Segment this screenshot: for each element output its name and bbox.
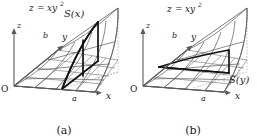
tick-label-a-x: a (72, 94, 77, 103)
axis-z-a (11, 28, 16, 86)
axis-label-x-a: x (106, 91, 111, 101)
figure-panel-b: z = xy 2 S(y) z y x O a b (b) (129, 0, 257, 139)
panel-caption-b: (b) (129, 124, 257, 137)
axis-label-z-b: z (145, 21, 151, 30)
figure-panel-a: z = xy 2 S(x) z y x O a b (a) (0, 0, 128, 139)
axis-label-y-b: y (190, 32, 197, 42)
tick-label-a-y: b (43, 31, 48, 40)
diagram-a: z = xy 2 S(x) z y x O a b (0, 0, 128, 120)
surface-equation-lhs-b: z (166, 4, 172, 14)
tick-label-b-y: b (172, 31, 177, 40)
axis-label-y-a: y (61, 32, 68, 42)
axis-z-b (140, 28, 145, 86)
cross-section-label-a: S(x) (64, 8, 84, 19)
axis-label-z-a: z (16, 21, 22, 30)
cross-section-label-b: S(y) (229, 74, 249, 85)
surface-equation-base-b: xy (185, 4, 196, 14)
surface-equation-exponent-b: 2 (197, 1, 202, 8)
origin-label-b: O (130, 84, 137, 94)
surface-equation-exponent-a: 2 (59, 0, 64, 7)
surface-equation-equals-a: = (37, 3, 45, 13)
origin-label-a: O (1, 84, 8, 94)
surface-equation-equals-b: = (175, 4, 183, 14)
panel-caption-a: (a) (0, 124, 128, 137)
figure-pair: z = xy 2 S(x) z y x O a b (a) (0, 0, 257, 139)
surface-equation-lhs-a: z (28, 3, 34, 13)
diagram-b: z = xy 2 S(y) z y x O a b (129, 0, 257, 120)
tick-label-b-x: a (201, 94, 206, 103)
axis-label-x-b: x (235, 91, 240, 101)
surface-equation-base-a: xy (47, 3, 58, 13)
